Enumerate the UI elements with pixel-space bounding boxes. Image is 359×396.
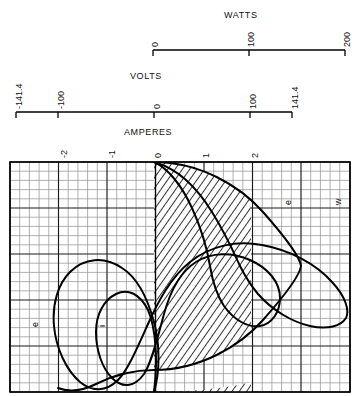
volts-axis-line — [16, 112, 292, 118]
figure-root: WATTS 0 100 200 VOLTS -141.4 -100 0 100 … — [0, 0, 359, 396]
watts-axis-line — [153, 50, 345, 56]
waveform-plot — [0, 0, 359, 396]
power-shading — [154, 162, 320, 392]
